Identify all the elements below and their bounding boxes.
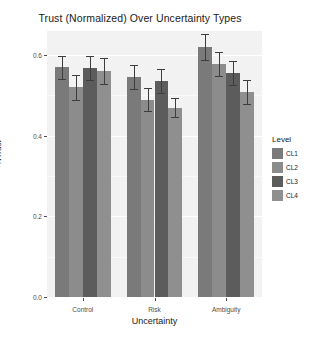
bar-ambiguity-cl2 — [212, 64, 226, 297]
error-bar-stem — [175, 98, 176, 117]
error-bar-stem — [90, 56, 91, 80]
bar-control-cl3 — [83, 68, 97, 297]
error-bar-stem — [233, 61, 234, 85]
error-bar-cap-lower — [58, 79, 66, 80]
bar-control-cl1 — [55, 67, 69, 297]
error-bar-cap-upper — [58, 56, 66, 57]
error-bar-cap-lower — [72, 100, 80, 101]
y-tick-mark — [44, 55, 47, 56]
bar-risk-cl4 — [168, 108, 182, 297]
error-bar-stem — [104, 58, 105, 84]
plot-panel — [47, 31, 262, 297]
legend: Level CL1CL2CL3CL4 — [272, 135, 298, 203]
legend-label-cl2: CL2 — [286, 164, 298, 171]
error-bar-cap-lower — [144, 111, 152, 112]
error-bar-cap-lower — [86, 80, 94, 81]
error-bar-cap-upper — [215, 52, 223, 53]
error-bar-cap-upper — [171, 98, 179, 99]
bar-risk-cl3 — [155, 81, 169, 297]
error-bar-stem — [62, 56, 63, 79]
legend-item-cl3[interactable]: CL3 — [272, 175, 298, 188]
error-bar-stem — [205, 34, 206, 60]
bar-risk-cl2 — [141, 100, 155, 297]
error-bar-cap-lower — [201, 60, 209, 61]
error-bar-cap-lower — [229, 85, 237, 86]
legend-title: Level — [272, 135, 298, 144]
error-bar-cap-upper — [130, 65, 138, 66]
error-bar-cap-upper — [72, 75, 80, 76]
legend-label-cl3: CL3 — [286, 178, 298, 185]
legend-swatch-cl2 — [272, 162, 283, 173]
error-bar-cap-lower — [215, 76, 223, 77]
y-tick-label: 0.4 — [8, 132, 42, 139]
error-bar-stem — [134, 65, 135, 89]
y-tick-mark — [44, 297, 47, 298]
y-tick-label: 0.6 — [8, 52, 42, 59]
legend-item-cl2[interactable]: CL2 — [272, 161, 298, 174]
x-tick-mark — [155, 298, 156, 301]
legend-items: CL1CL2CL3CL4 — [272, 147, 298, 202]
y-axis-title: NTrust — [0, 140, 3, 164]
error-bar-cap-upper — [86, 56, 94, 57]
error-bar-cap-upper — [144, 88, 152, 89]
error-bar-cap-upper — [157, 69, 165, 70]
error-bar-stem — [219, 52, 220, 76]
bar-ambiguity-cl3 — [226, 73, 240, 297]
legend-swatch-cl4 — [272, 190, 283, 201]
legend-label-cl1: CL1 — [286, 150, 298, 157]
error-bar-cap-upper — [201, 34, 209, 35]
bar-control-cl4 — [97, 71, 111, 297]
bar-ambiguity-cl1 — [198, 47, 212, 297]
legend-swatch-cl3 — [272, 176, 283, 187]
legend-item-cl1[interactable]: CL1 — [272, 147, 298, 160]
gridline-major — [47, 55, 262, 56]
legend-swatch-cl1 — [272, 148, 283, 159]
x-axis-title: Uncertainty — [47, 316, 262, 326]
y-tick-mark — [44, 216, 47, 217]
error-bar-stem — [76, 75, 77, 99]
x-tick-label-ambiguity: Ambiguity — [212, 306, 241, 313]
chart-title: Trust (Normalized) Over Uncertainty Type… — [0, 12, 280, 24]
y-tick-label: 0.0 — [8, 294, 42, 301]
bar-ambiguity-cl4 — [240, 92, 254, 297]
chart-container: Trust (Normalized) Over Uncertainty Type… — [0, 0, 320, 339]
error-bar-stem — [161, 69, 162, 93]
bar-risk-cl1 — [127, 77, 141, 297]
error-bar-stem — [247, 80, 248, 104]
error-bar-cap-lower — [243, 104, 251, 105]
legend-label-cl4: CL4 — [286, 192, 298, 199]
x-tick-mark — [83, 298, 84, 301]
x-tick-label-control: Control — [72, 306, 93, 313]
error-bar-cap-upper — [243, 80, 251, 81]
error-bar-cap-lower — [171, 117, 179, 118]
error-bar-cap-lower — [100, 84, 108, 85]
error-bar-cap-upper — [100, 58, 108, 59]
x-tick-label-risk: Risk — [148, 306, 161, 313]
error-bar-cap-lower — [157, 93, 165, 94]
legend-item-cl4[interactable]: CL4 — [272, 189, 298, 202]
bar-control-cl2 — [69, 87, 83, 297]
error-bar-cap-lower — [130, 89, 138, 90]
error-bar-cap-upper — [229, 61, 237, 62]
y-tick-label: 0.2 — [8, 213, 42, 220]
error-bar-stem — [148, 88, 149, 111]
y-tick-mark — [44, 136, 47, 137]
x-tick-mark — [226, 298, 227, 301]
